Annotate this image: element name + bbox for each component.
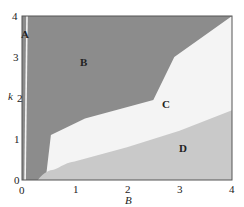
x-tick-4: 4 <box>229 183 235 195</box>
x-tick-0: 0 <box>19 184 25 196</box>
region-label-a: A <box>21 28 29 40</box>
region-label-c: C <box>162 98 170 110</box>
plot-area <box>22 16 232 180</box>
y-tick-2: 2 <box>17 92 23 104</box>
x-axis-title: B <box>125 194 132 206</box>
y-tick-1: 1 <box>14 133 20 145</box>
y-axis-title: k <box>8 90 14 102</box>
region-label-b: B <box>80 56 88 68</box>
x-tick-1: 1 <box>73 183 79 195</box>
x-axis: 0 1 2 3 4 B <box>19 183 235 206</box>
region-label-d: D <box>179 142 187 154</box>
phase-diagram: A B C D 4 3 2 1 0 k 0 1 2 3 4 B <box>0 0 244 207</box>
y-tick-3: 3 <box>13 51 19 63</box>
x-tick-3: 3 <box>177 183 183 195</box>
y-tick-4: 4 <box>12 10 18 22</box>
